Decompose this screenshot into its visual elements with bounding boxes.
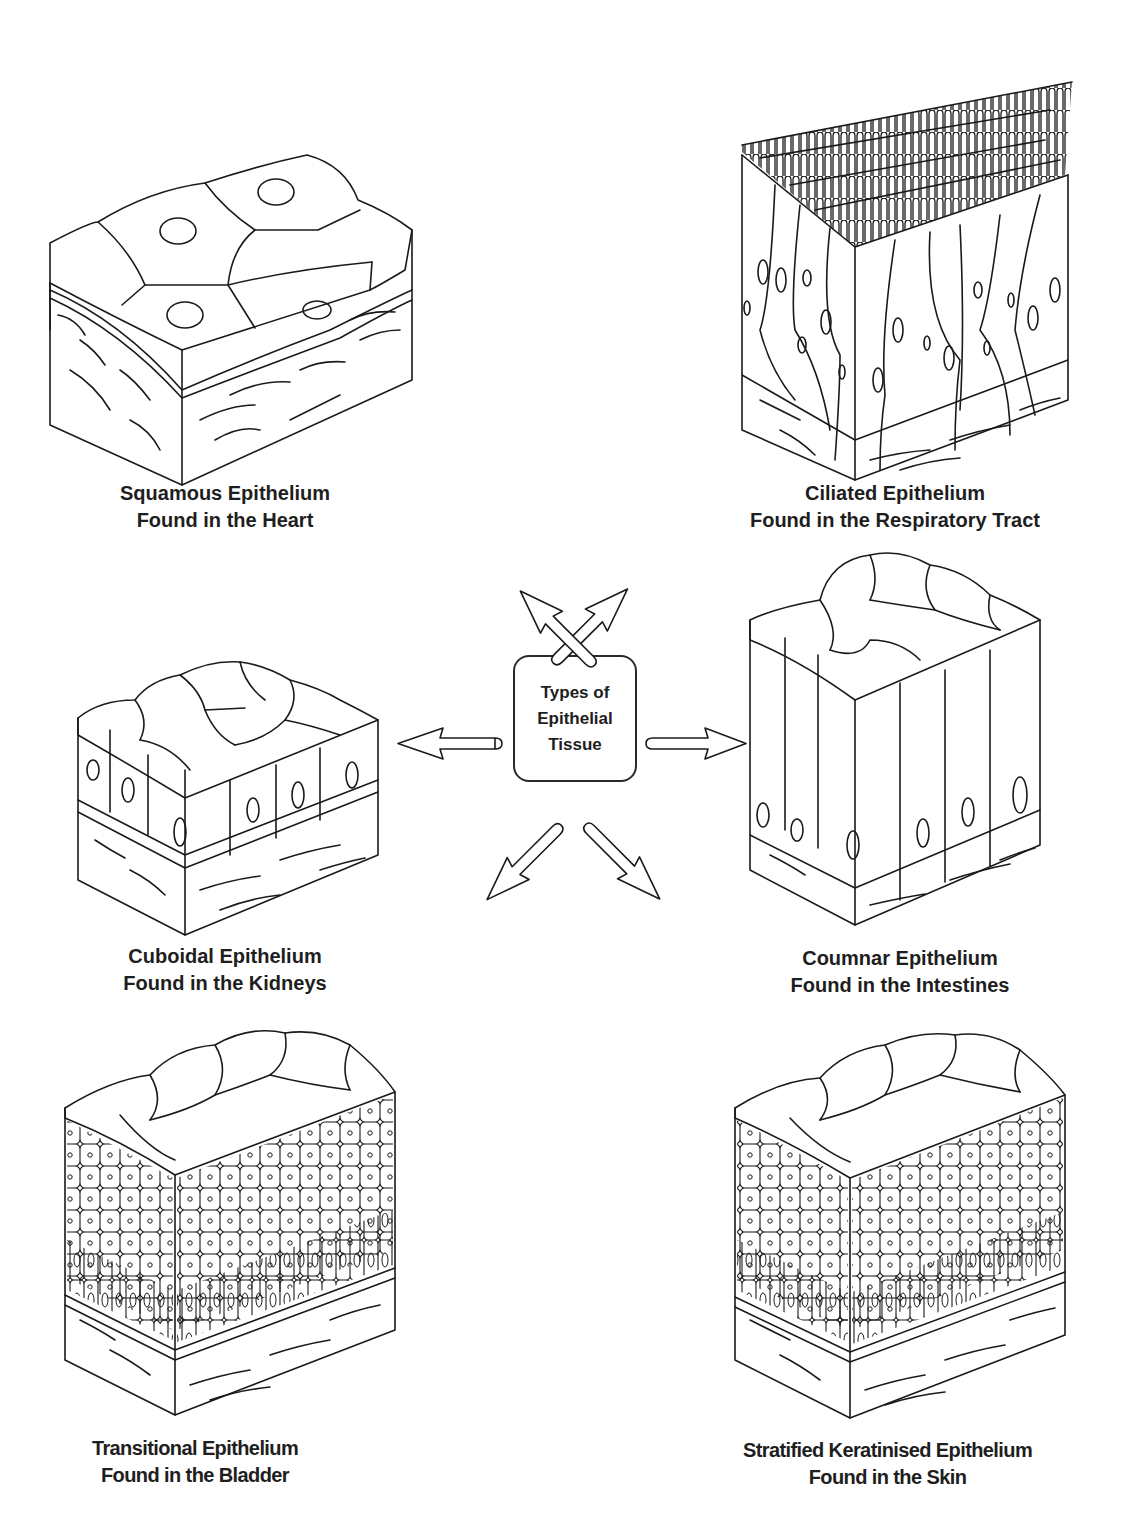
arrow-left-icon: [398, 728, 502, 759]
arrows-group: [0, 0, 1123, 1535]
arrow-right-icon: [646, 728, 746, 759]
arrow-down-left-icon: [476, 814, 572, 910]
arrow-down-right-icon: [574, 814, 670, 910]
